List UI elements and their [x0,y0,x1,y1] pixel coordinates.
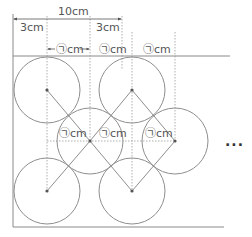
top-label-3: ㉠cm [143,43,171,56]
center-dot-top-left [45,88,48,91]
center-dot-bottom-right [130,189,133,192]
middle-label-1: ㉠cm [59,127,87,140]
left-margin-label: 3cm [20,21,44,34]
spacing-arrowhead-left-icon [47,48,51,50]
total-width-label: 10cm [58,5,89,18]
center-dot-bottom-left [45,189,48,192]
spacing-arrowhead-right-icon [87,48,91,50]
center-connector-left [47,90,90,191]
middle-label-2: ㉠cm [99,127,127,140]
center-dot-middle-right [173,139,176,142]
center-dot-middle-left [88,139,91,142]
center-connector-middle-down [90,141,175,191]
center-dot-top-right [130,88,133,91]
continuation-ellipsis: ... [225,133,244,149]
arrowhead-left-icon [13,18,17,21]
top-label-2: ㉠cm [99,43,127,56]
circle-packing-diagram: 10cm 3cm 3cm ㉠cm ㉠cm ㉠cm ㉠cm ㉠cm ㉠cm ... [0,0,252,237]
middle-label-3: ㉠cm [145,127,173,140]
right-margin-label: 3cm [96,21,120,34]
top-label-1: ㉠cm [56,43,84,56]
